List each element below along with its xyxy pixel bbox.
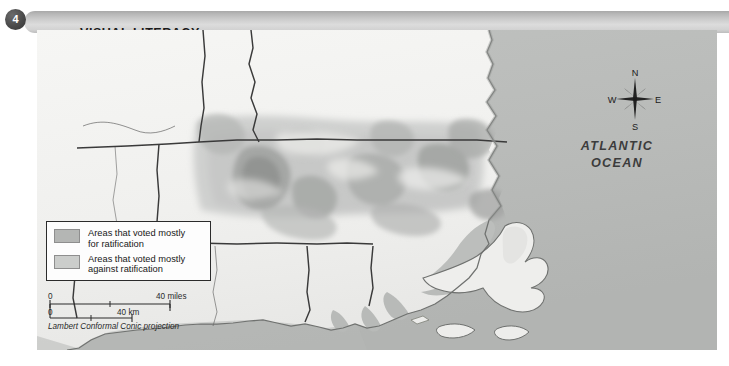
legend-item-for-ratification: Areas that voted mostly for ratification: [54, 228, 203, 250]
compass-label-west: W: [607, 95, 617, 105]
legend-label-against-ratification: Areas that voted mostly against ratifica…: [88, 254, 185, 276]
map-legend: Areas that voted mostly for ratification…: [46, 221, 211, 281]
legend-label-for-ratification: Areas that voted mostly for ratification: [88, 228, 185, 250]
compass-label-south: S: [630, 122, 640, 132]
scale-label-miles-zero: 0: [48, 292, 53, 301]
map-scale-bar: 0 40 miles 0 40 km: [48, 292, 223, 322]
scale-label-miles-max: 40 miles: [156, 292, 187, 301]
ocean-label: ATLANTIC OCEAN: [561, 138, 673, 172]
compass-label-north: N: [630, 68, 640, 78]
compass-rose: N S W E: [606, 68, 664, 134]
ocean-label-line-2: OCEAN: [561, 155, 673, 172]
scale-label-km-zero: 0: [48, 308, 53, 317]
section-number-badge: 4: [5, 9, 26, 30]
compass-label-east: E: [653, 95, 663, 105]
legend-swatch-against-ratification: [54, 255, 80, 269]
scale-bar-graphic: [48, 292, 223, 322]
map-projection-note: Lambert Conformal Conic projection: [48, 322, 198, 332]
border-ma-ri: [277, 243, 373, 244]
scale-label-km-max: 40 km: [117, 308, 139, 317]
page-root: VISUAL LITERACY 4: [0, 0, 729, 366]
legend-swatch-for-ratification: [54, 229, 80, 243]
bottom-margin: [0, 350, 729, 366]
legend-item-against-ratification: Areas that voted mostly against ratifica…: [54, 254, 203, 276]
ocean-label-line-1: ATLANTIC: [561, 138, 673, 155]
